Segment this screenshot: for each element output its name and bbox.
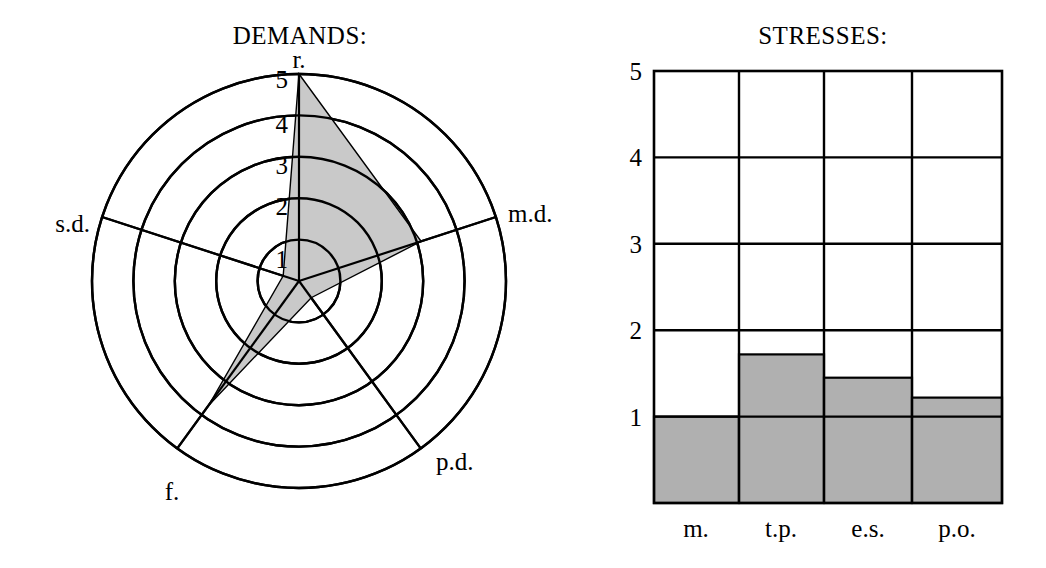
radar-rtick-3: 3 (276, 152, 289, 179)
bar-ytick-1: 1 (630, 404, 643, 431)
bar-m (654, 417, 739, 503)
bar-ytick-5: 5 (630, 58, 643, 85)
radar-rtick-1: 1 (276, 246, 289, 273)
bar-ytick-2: 2 (630, 317, 643, 344)
bar-es (824, 378, 912, 503)
radar-rtick-5: 5 (276, 66, 289, 93)
bar-ytick-4: 4 (630, 144, 643, 171)
radar-axis-label-sd: s.d. (55, 210, 90, 237)
bar-xlabel-tp: t.p. (765, 515, 797, 542)
bar-xlabel-po: p.o. (938, 515, 976, 542)
bar-ytick-3: 3 (630, 231, 643, 258)
stresses-bar-panel: STRESSES: 5 4 3 (600, 0, 1046, 568)
radar-spoke-pd-overlay (299, 281, 421, 448)
radar-axis-label-md: m.d. (508, 200, 552, 227)
radar-chart-svg: 1 2 3 4 5 r. m.d. p.d. f. s.d. (0, 0, 600, 568)
radar-axis-label-pd: p.d. (436, 448, 474, 475)
figure-container: DEMANDS: (0, 0, 1046, 568)
radar-spoke-f-overlay (177, 281, 299, 448)
radar-rtick-2: 2 (276, 193, 289, 220)
radar-axis-label-f: f. (165, 478, 180, 505)
radar-data-polygon (209, 74, 421, 405)
demands-radar-panel: DEMANDS: (0, 0, 600, 568)
bar-xlabel-es: e.s. (851, 515, 884, 542)
bar-chart-svg: 5 4 3 2 1 m. t.p. e.s. p.o. (600, 0, 1046, 568)
radar-rtick-4: 4 (276, 111, 289, 138)
radar-spoke-sd-overlay (102, 217, 299, 281)
bar-xlabel-m: m. (683, 515, 709, 542)
bar-tp (739, 354, 824, 503)
bar-po (912, 398, 1002, 503)
radar-axis-label-r: r. (292, 46, 305, 73)
